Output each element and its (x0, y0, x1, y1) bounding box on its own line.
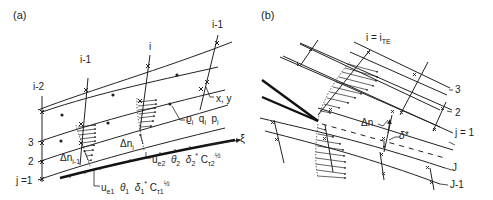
row-label-3: 3 (28, 138, 34, 148)
b-delta-n-label: Δn (361, 118, 373, 128)
cell-props-label: ϱi qi pi (186, 114, 219, 126)
station-2-label: ue2 θ2 δ2* Cτ2½ (152, 152, 221, 167)
wake-centerline (322, 124, 445, 158)
b-col-low-3 (430, 168, 434, 190)
col-label-i: i (149, 42, 151, 52)
row-label-2: 2 (28, 157, 34, 167)
col-label-i-1-right: i-1 (212, 20, 223, 30)
b-row-J (260, 118, 445, 168)
panel-b-grid (280, 44, 480, 150)
panel-b-label: (b) (261, 10, 274, 21)
station-1-label: ue1 θ1 δ1* Cτ1½ (101, 180, 170, 195)
panel-b-airfoil (262, 80, 318, 121)
b-col-low-1 (274, 120, 284, 163)
row-label-j1: j =1 (16, 176, 32, 186)
b-row-label-3: 3 (455, 85, 461, 95)
delta-n-i-1-label: Δni-1 (60, 153, 80, 165)
b-row-label-j1: j = 1 (455, 128, 474, 138)
panel-a-label: (a) (13, 10, 26, 21)
b-row-label-2: 2 (455, 108, 461, 118)
panel-a-profile-2 (137, 98, 157, 150)
b-col-te (318, 50, 370, 115)
b-row-label-J: J (452, 163, 457, 173)
diagram-canvas (0, 0, 493, 200)
delta-n-i-label: Δni (120, 139, 134, 151)
point-label-xy: x, y (216, 94, 232, 104)
trailing-edge-label: i = iTE (366, 33, 391, 45)
figure: (a) i-2 i-1 i i-1 j =1 2 3 x, y ϱi qi pi… (0, 0, 493, 200)
panel-a-leaders (94, 87, 214, 186)
panel-a-cell-centers (59, 73, 178, 142)
b-delta-star-label: δ* (399, 131, 408, 141)
b-row-label-J-1: J-1 (450, 180, 464, 190)
xi-axis-arrow (200, 140, 240, 146)
col-label-i-2: i-2 (33, 82, 44, 92)
b-col-low-2 (380, 152, 384, 180)
xi-axis-label: ξ (240, 133, 245, 144)
col-label-i-1: i-1 (80, 55, 91, 65)
